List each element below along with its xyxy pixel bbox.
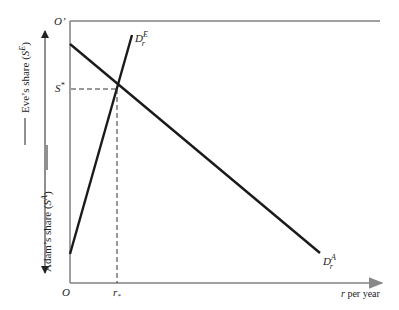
adam-share-label: Adam’s share (SA) bbox=[40, 191, 54, 272]
adam-curve-label: DAr bbox=[322, 253, 336, 271]
s-star-label: S* bbox=[55, 81, 65, 94]
r-star-label: r* bbox=[113, 286, 121, 300]
eve-adam-diagram: Eve’s share (SE) Adam’s share (SA) O’ O … bbox=[0, 0, 399, 310]
eve-curve-label: DEr bbox=[134, 30, 148, 48]
adam-demand-curve bbox=[70, 44, 320, 253]
x-axis-label: r per year bbox=[341, 288, 381, 299]
eve-demand-curve bbox=[70, 35, 132, 254]
top-origin-label: O’ bbox=[54, 15, 66, 27]
eve-share-label: Eve’s share (SE) bbox=[18, 42, 32, 113]
origin-label: O bbox=[62, 286, 70, 298]
